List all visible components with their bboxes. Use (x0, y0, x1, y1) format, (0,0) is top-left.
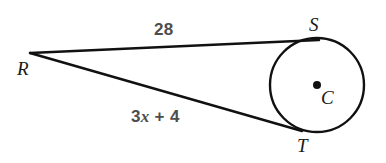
point-label-c: C (321, 88, 334, 107)
segment-rt-constant: 4 (170, 107, 180, 126)
segment-rt-coefficient: 3 (131, 107, 141, 126)
center-point-c-dot (313, 81, 321, 89)
geometry-figure-circle-tangents: R S T C 28 3x + 4 (0, 0, 386, 163)
segment-rs-measure-label: 28 (154, 21, 174, 38)
segment-rt-variable: x (141, 107, 150, 126)
point-label-r: R (17, 59, 29, 78)
segment-rt-measure-label: 3x + 4 (131, 108, 180, 125)
point-label-s: S (309, 15, 319, 34)
segment-rs (30, 40, 319, 53)
segment-rt-operator: + (155, 107, 165, 126)
figure-canvas (0, 0, 386, 163)
point-label-t: T (297, 136, 308, 155)
